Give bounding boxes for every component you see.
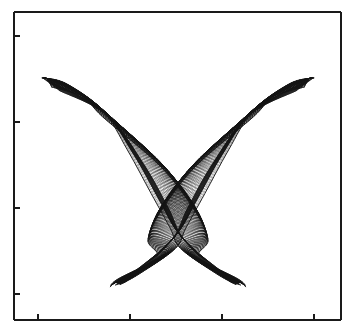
plot-canvas	[0, 0, 349, 335]
figure-panel	[0, 0, 349, 335]
plot-background	[0, 0, 349, 335]
